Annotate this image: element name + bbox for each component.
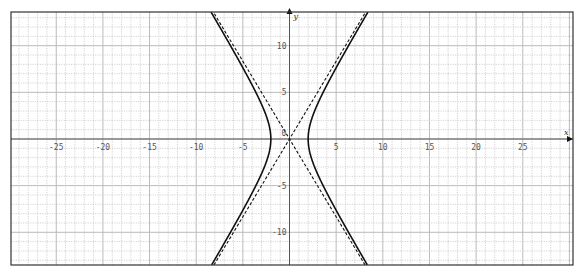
x-axis-label: x <box>564 128 569 137</box>
x-tick-label: -5 <box>238 143 248 152</box>
origin-label: 0 <box>282 129 287 138</box>
x-tick-label: 10 <box>378 143 388 152</box>
y-axis-arrow <box>287 8 293 14</box>
y-tick-label: 10 <box>277 42 287 51</box>
x-tick-label: 5 <box>334 143 339 152</box>
x-tick-label: -15 <box>142 143 157 152</box>
tick-labels: -25-20-15-10-5510152025-10-5510 <box>49 42 528 238</box>
y-tick-label: -10 <box>272 228 287 237</box>
hyperbola-chart: -25-20-15-10-5510152025-10-5510 x y 0 <box>0 0 583 276</box>
x-tick-label: -10 <box>189 143 204 152</box>
x-tick-label: 25 <box>518 143 528 152</box>
x-tick-label: 15 <box>425 143 435 152</box>
x-tick-label: 20 <box>471 143 481 152</box>
x-tick-label: -25 <box>49 143 64 152</box>
x-tick-label: -20 <box>96 143 111 152</box>
y-tick-label: -5 <box>277 182 287 191</box>
axes <box>11 8 573 265</box>
y-tick-label: 5 <box>282 88 287 97</box>
y-axis-label: y <box>293 12 299 21</box>
